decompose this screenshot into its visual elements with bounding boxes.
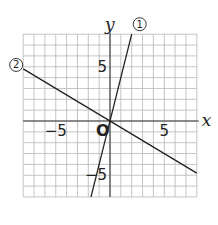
label-number: 2 xyxy=(13,59,19,70)
line-label-1: 1 xyxy=(133,18,146,31)
origin-label: O xyxy=(96,121,110,140)
line-labels: 12 xyxy=(10,18,147,72)
label-number: 1 xyxy=(137,19,143,30)
y-tick-label: 5 xyxy=(97,58,107,76)
x-tick-label: −5 xyxy=(45,122,67,140)
graph-canvas: x y O −555−5 12 xyxy=(0,0,218,225)
y-axis-label: y xyxy=(104,14,115,34)
y-tick-label: −5 xyxy=(85,166,107,184)
line-label-2: 2 xyxy=(10,58,23,71)
x-tick-label: 5 xyxy=(159,122,169,140)
x-axis-label: x xyxy=(202,110,212,130)
